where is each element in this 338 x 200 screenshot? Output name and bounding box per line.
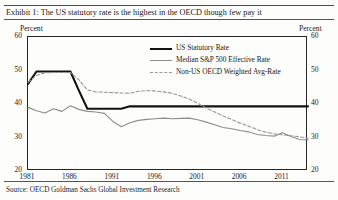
x-tick-1986: 1986 — [57, 172, 81, 181]
exhibit-figure: Exhibit 1: The US statutory rate is the … — [0, 0, 338, 200]
legend-item-2: Non-US OECD Weighted Avg-Rate — [150, 66, 300, 77]
y-tick-right-50: 50 — [311, 66, 325, 74]
y-tick-left-40: 40 — [8, 99, 22, 107]
y-tick-right-40: 40 — [311, 99, 325, 107]
y-tick-right-30: 30 — [311, 133, 325, 141]
legend-label: Median S&P 500 Effective Rate — [176, 55, 270, 64]
legend-item-1: Median S&P 500 Effective Rate — [150, 54, 300, 65]
x-tick-2006: 2006 — [227, 172, 251, 181]
y-tick-left-50: 50 — [8, 66, 22, 74]
legend-item-0: US Statutory Rate — [150, 42, 300, 53]
y-tick-left-30: 30 — [8, 133, 22, 141]
y-tick-right-60: 60 — [311, 32, 325, 40]
x-tick-2001: 2001 — [185, 172, 209, 181]
x-tick-2011: 2011 — [270, 172, 294, 181]
x-tick-1996: 1996 — [142, 172, 166, 181]
chart-legend: US Statutory RateMedian S&P 500 Effectiv… — [150, 42, 300, 78]
series-line — [28, 106, 308, 140]
title-underline-rule — [4, 19, 334, 20]
exhibit-title: Exhibit 1: The US statutory rate is the … — [6, 7, 334, 19]
source-note: Source: OECD Goldman Sachs Global Invest… — [6, 185, 180, 195]
y-tick-right-20: 20 — [311, 166, 325, 174]
source-rule — [4, 181, 334, 182]
x-tick-1991: 1991 — [100, 172, 124, 181]
y-axis-left-unit: Percent — [20, 24, 43, 33]
legend-label: US Statutory Rate — [176, 43, 229, 52]
x-tick-1981: 1981 — [15, 172, 39, 181]
legend-label: Non-US OECD Weighted Avg-Rate — [176, 67, 281, 76]
top-rule — [4, 5, 334, 6]
y-tick-left-60: 60 — [8, 32, 22, 40]
